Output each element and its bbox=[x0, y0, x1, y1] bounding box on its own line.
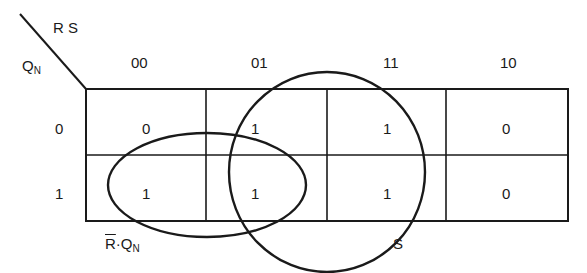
column-header-01: 01 bbox=[251, 55, 268, 70]
group-label-rbar-qn: R·QN bbox=[105, 236, 140, 251]
column-header-11: 11 bbox=[383, 55, 399, 70]
cell-r1-c3: 0 bbox=[502, 186, 510, 201]
q-subscript: N bbox=[133, 243, 140, 254]
cell-r1-c1: 1 bbox=[251, 186, 259, 201]
column-header-00: 00 bbox=[131, 55, 148, 70]
group-label-s: S bbox=[393, 236, 403, 251]
cell-r0-c3: 0 bbox=[502, 121, 510, 136]
q-base: ·Q bbox=[116, 235, 133, 252]
cell-r0-c2: 1 bbox=[383, 121, 391, 136]
cell-r1-c2: 1 bbox=[383, 186, 391, 201]
cell-r0-c1: 1 bbox=[251, 121, 259, 136]
row-variable-subscript: N bbox=[34, 65, 41, 76]
cell-r1-c0: 1 bbox=[142, 186, 150, 201]
row-header-0: 0 bbox=[55, 121, 63, 136]
cell-r0-c0: 0 bbox=[142, 121, 150, 136]
r-bar: R bbox=[105, 235, 116, 252]
column-variables-label: R S bbox=[53, 20, 78, 35]
row-variable-base: Q bbox=[22, 57, 34, 74]
column-header-10: 10 bbox=[500, 55, 517, 70]
row-variable-label: QN bbox=[22, 58, 41, 73]
row-header-1: 1 bbox=[55, 186, 63, 201]
kmap-graphics bbox=[0, 0, 587, 273]
